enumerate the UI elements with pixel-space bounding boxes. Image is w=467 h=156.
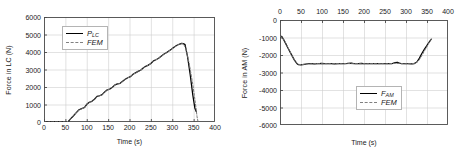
legend-solid-line-icon	[360, 93, 377, 95]
x-axis-tick-labels-left: 050100150200250300350400	[44, 124, 215, 134]
y-tick-label: 4000	[25, 49, 41, 56]
legend-left: PLC FEM	[62, 26, 108, 50]
y-tick-label: -4000	[259, 87, 277, 94]
x-tick-label: 400	[442, 8, 454, 15]
legend-label: PLC	[87, 29, 99, 39]
chart-panel-load-cell-force: Force in LC (N) 010002000300040005000600…	[0, 0, 234, 156]
y-tick-label: 5000	[25, 31, 41, 38]
x-tick-label: 400	[209, 124, 221, 131]
y-tick-label: 0	[37, 119, 41, 126]
legend-entry: FEM	[360, 98, 397, 107]
legend-dashed-line-icon	[360, 102, 377, 103]
y-axis-tick-labels-right: 0-1000-2000-3000-4000-5000-6000	[253, 20, 277, 125]
x-axis-tick-labels-right: 050100150200250300350400	[280, 8, 448, 18]
legend-entry: FEM	[66, 38, 103, 47]
x-axis-title-left: Time (s)	[44, 138, 215, 145]
y-tick-label: -6000	[259, 122, 277, 129]
legend-label: FAM	[381, 89, 394, 99]
legend-entry: FAM	[360, 89, 397, 98]
y-tick-label: 1000	[25, 101, 41, 108]
figure-two-panel-force-plots: Force in LC (N) 010002000300040005000600…	[0, 0, 467, 156]
y-tick-label: -1000	[259, 34, 277, 41]
x-tick-label: 150	[102, 124, 114, 131]
y-tick-label: 2000	[25, 84, 41, 91]
y-axis-tick-labels-left: 0100020003000400050006000	[17, 17, 41, 122]
legend-right: FAM FEM	[356, 86, 402, 110]
legend-dashed-line-icon	[66, 42, 83, 43]
x-tick-label: 250	[145, 124, 157, 131]
y-tick-label: -2000	[259, 52, 277, 59]
y-tick-label: -5000	[259, 104, 277, 111]
legend-entry: PLC	[66, 29, 103, 38]
x-tick-label: 50	[297, 8, 305, 15]
y-axis-title-right: Force in AM (N)	[241, 47, 248, 98]
x-tick-label: 100	[81, 124, 93, 131]
y-axis-title-left: Force in LC (N)	[5, 45, 12, 94]
legend-solid-line-icon	[66, 33, 83, 35]
x-tick-label: 300	[400, 8, 412, 15]
legend-label: FEM	[381, 98, 397, 107]
y-tick-label: -3000	[259, 69, 277, 76]
x-tick-label: 0	[42, 124, 46, 131]
x-axis-title-right: Time (s)	[280, 139, 448, 146]
x-tick-label: 100	[316, 8, 328, 15]
x-tick-label: 250	[379, 8, 391, 15]
y-tick-label: 0	[273, 17, 277, 24]
chart-panel-anchor-member-force: Force in AM (N) 0-1000-2000-3000-4000-50…	[234, 0, 467, 156]
x-tick-label: 50	[61, 124, 69, 131]
y-tick-label: 6000	[25, 14, 41, 21]
x-tick-label: 350	[421, 8, 433, 15]
x-tick-label: 200	[124, 124, 136, 131]
x-tick-label: 0	[278, 8, 282, 15]
x-tick-label: 300	[166, 124, 178, 131]
x-tick-label: 200	[358, 8, 370, 15]
y-tick-label: 3000	[25, 66, 41, 73]
x-tick-label: 350	[188, 124, 200, 131]
legend-label: FEM	[87, 38, 103, 47]
x-tick-label: 150	[337, 8, 349, 15]
